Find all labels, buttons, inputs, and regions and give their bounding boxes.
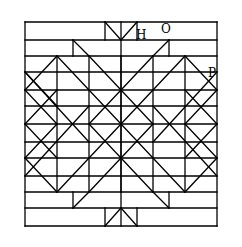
side-diagonal [185, 158, 217, 192]
label-h: H [136, 28, 146, 42]
pattern-lines [25, 22, 217, 226]
cap-diagonal [105, 208, 121, 226]
star-diagonal [89, 158, 121, 192]
geometric-pattern-diagram: H O P [0, 0, 242, 247]
label-p: P [208, 66, 216, 80]
cap-diagonal [121, 208, 137, 226]
star-diagonal [121, 56, 153, 90]
band-diagonal [73, 192, 89, 208]
star-diagonal [121, 158, 153, 192]
band-diagonal [153, 40, 169, 56]
band-diagonal [73, 40, 89, 56]
cap-diagonal [105, 22, 121, 40]
side-diagonal [25, 158, 57, 192]
label-o: O [161, 22, 171, 36]
side-diagonal [25, 56, 57, 90]
star-diagonal [89, 56, 121, 90]
band-diagonal [153, 192, 169, 208]
cap-diagonal [121, 22, 137, 40]
